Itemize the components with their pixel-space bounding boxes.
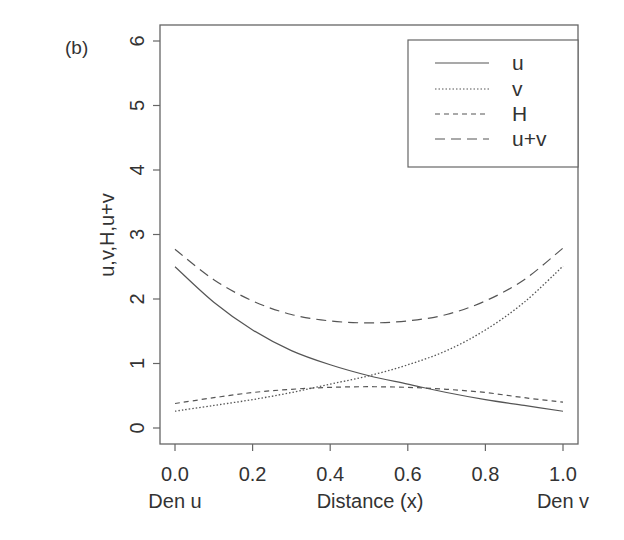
series-v-line [175, 266, 563, 411]
x-tick-label: 1.0 [549, 463, 577, 485]
x-end-label-left: Den u [148, 490, 201, 512]
y-tick-label: 1 [126, 358, 148, 369]
legend-box [408, 40, 578, 167]
legend-label: H [512, 102, 527, 125]
y-tick-label: 3 [126, 229, 148, 240]
y-tick-label: 6 [126, 35, 148, 46]
y-tick-label: 2 [126, 293, 148, 304]
y-tick-label: 4 [126, 164, 148, 175]
legend-label: v [512, 77, 523, 100]
series-H-line [175, 387, 563, 404]
series-group [175, 248, 563, 411]
x-axis-label: Distance (x) [317, 490, 424, 512]
y-tick-label: 5 [126, 100, 148, 111]
x-tick-label: 0.8 [471, 463, 499, 485]
x-tick-label: 0.0 [161, 463, 189, 485]
x-end-label-right: Den v [537, 490, 589, 512]
x-tick-label: 0.4 [316, 463, 344, 485]
series-u-plus-v-line [175, 248, 563, 323]
line-chart: (b) 0123456 0.00.20.40.60.81.0 u,v,H,u+v… [0, 0, 624, 540]
y-tick-label: 0 [126, 422, 148, 433]
x-tick-label: 0.6 [394, 463, 422, 485]
y-axis: 0123456 [126, 35, 160, 433]
series-u-line [175, 267, 563, 411]
legend-label: u+v [512, 127, 547, 150]
x-tick-label: 0.2 [239, 463, 267, 485]
legend-label: u [512, 51, 524, 74]
panel-label: (b) [65, 37, 88, 58]
legend: uvHu+v [408, 40, 578, 167]
x-axis: 0.00.20.40.60.81.0 [161, 444, 577, 485]
y-axis-label: u,v,H,u+v [96, 193, 118, 277]
